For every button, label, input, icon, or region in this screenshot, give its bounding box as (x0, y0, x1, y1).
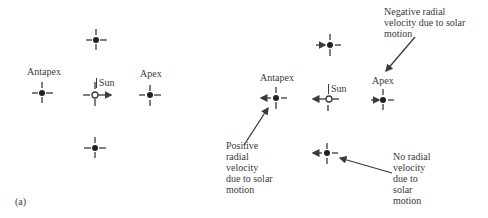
panel-label-a: (a) (15, 196, 26, 207)
pointer-none (340, 158, 392, 173)
star-apex-b (371, 89, 394, 110)
antapex-label-b: Antapex (260, 72, 294, 83)
sun-label-b: Sun (328, 84, 347, 94)
annotation-negative: Negative radial velocity due to solar mo… (384, 6, 465, 39)
pointer-negative (386, 37, 415, 71)
sun-label-a: Sun (96, 78, 115, 88)
antapex-label-a: Antapex (27, 66, 61, 77)
annotation-positive: Positive radial velocity due to solar mo… (226, 140, 273, 195)
sun-b (313, 96, 339, 111)
star-antapex-b (261, 87, 287, 109)
star-bottom-a (84, 137, 106, 158)
annotation-none: No radial velocity due to solar motion (393, 151, 431, 206)
apex-label-b: Apex (372, 75, 394, 86)
star-apex-a (139, 85, 161, 106)
star-top-b (316, 34, 341, 56)
star-top-a (86, 29, 107, 50)
apex-label-a: Apex (140, 68, 162, 79)
star-antapex-a (32, 82, 53, 103)
star-bottom-b (313, 143, 338, 164)
